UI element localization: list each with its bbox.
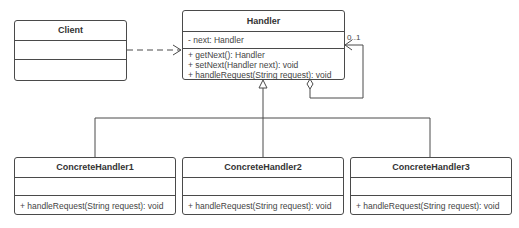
class-concrete-handler-3[interactable]: ConcreteHandler3 + handleRequest(String … — [350, 157, 512, 215]
methods-section: + handleRequest(String request): void — [351, 196, 511, 212]
methods-section: + getNext(): Handler + setNext(Handler n… — [183, 49, 344, 81]
attributes-section — [183, 178, 343, 196]
attributes-section — [351, 178, 511, 196]
class-name: Handler — [183, 11, 344, 32]
attributes-section — [15, 41, 126, 60]
method-getnext: + getNext(): Handler — [188, 50, 339, 60]
method-handlerequest: + handleRequest(String request): void — [356, 201, 506, 211]
methods-section: + handleRequest(String request): void — [183, 196, 343, 212]
attributes-section — [15, 178, 175, 196]
method-setnext: + setNext(Handler next): void — [188, 60, 339, 70]
methods-section — [15, 60, 126, 81]
class-name: Client — [15, 21, 126, 41]
method-handlerequest: + handleRequest(String request): void — [188, 70, 339, 80]
attribute-next: - next: Handler — [188, 35, 339, 45]
class-concrete-handler-2[interactable]: ConcreteHandler2 + handleRequest(String … — [182, 157, 344, 215]
attributes-section: - next: Handler — [183, 32, 344, 49]
class-name: ConcreteHandler3 — [351, 158, 511, 178]
multiplicity-label: 0..1 — [347, 33, 360, 42]
class-name: ConcreteHandler1 — [15, 158, 175, 178]
class-handler[interactable]: Handler - next: Handler + getNext(): Han… — [182, 10, 345, 80]
class-concrete-handler-1[interactable]: ConcreteHandler1 + handleRequest(String … — [14, 157, 176, 215]
class-name: ConcreteHandler2 — [183, 158, 343, 178]
methods-section: + handleRequest(String request): void — [15, 196, 175, 212]
generalization-triangle-icon — [259, 80, 267, 88]
method-handlerequest: + handleRequest(String request): void — [188, 201, 338, 211]
class-client[interactable]: Client — [14, 20, 127, 81]
method-handlerequest: + handleRequest(String request): void — [20, 201, 170, 211]
